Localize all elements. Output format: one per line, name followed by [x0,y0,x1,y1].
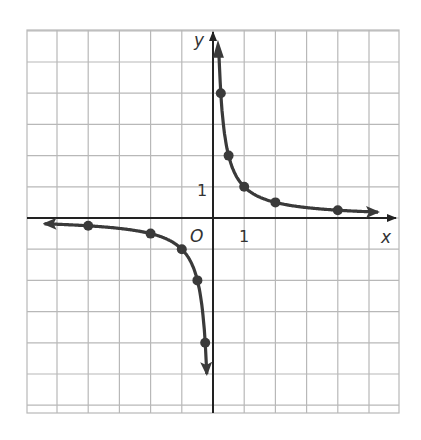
data-point [216,88,226,98]
data-point [83,221,93,231]
x-axis-label: x [380,227,392,247]
data-point [239,182,249,192]
y-tick-label-1: 1 [197,181,207,200]
data-point [192,275,202,285]
x-tick-label-1: 1 [239,227,249,246]
curve-branches [45,40,379,374]
hyperbola-plot: y x O 1 1 [0,0,421,440]
y-axis-label: y [193,30,205,50]
data-point [177,244,187,254]
data-point [224,151,234,161]
arrowhead-top [213,40,224,58]
axes [27,32,396,413]
origin-label: O [190,226,203,246]
data-point [146,229,156,239]
data-point [333,205,343,215]
data-point [270,197,280,207]
data-point [200,338,210,348]
